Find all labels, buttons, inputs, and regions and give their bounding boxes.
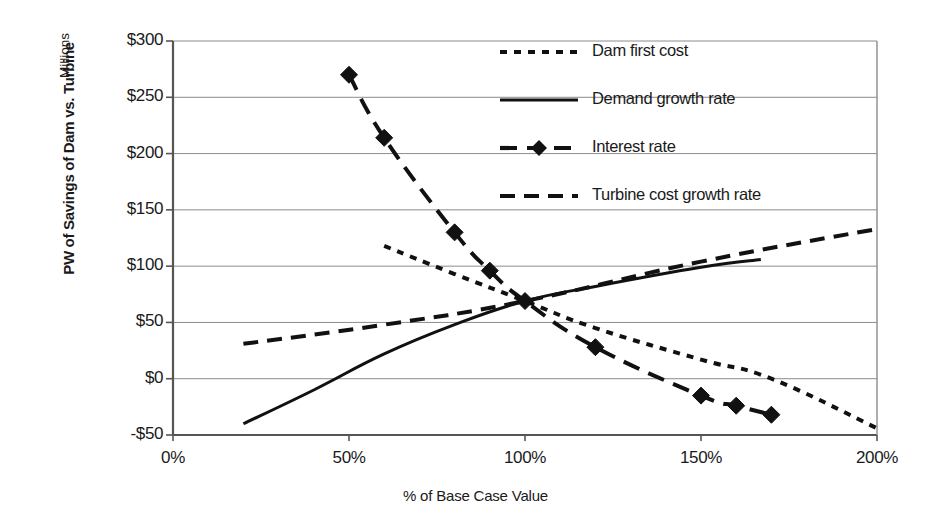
legend-label-0: Dam first cost bbox=[592, 41, 688, 60]
series-marker-2-6 bbox=[693, 387, 710, 404]
legend-label-3: Turbine cost growth rate bbox=[592, 185, 761, 204]
legend-label-1: Demand growth rate bbox=[592, 89, 735, 108]
series-marker-2-8 bbox=[763, 406, 780, 423]
legend-label-2: Interest rate bbox=[592, 137, 676, 156]
series-marker-2-7 bbox=[728, 397, 745, 414]
series-line-0 bbox=[384, 246, 877, 428]
series-line-1 bbox=[243, 259, 760, 423]
chart-root: PW of Savings of Dam vs. Turbine Million… bbox=[0, 0, 951, 525]
series-line-2 bbox=[349, 75, 771, 415]
plot-canvas bbox=[0, 0, 951, 525]
series-marker-2-5 bbox=[587, 339, 604, 356]
series-marker-2-0 bbox=[341, 66, 358, 83]
